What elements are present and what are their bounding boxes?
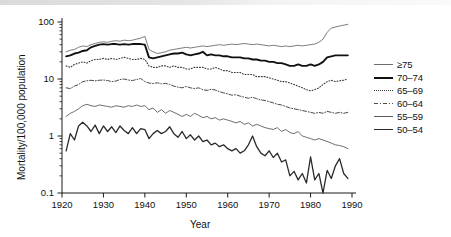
legend-label: 60–64 [397, 98, 423, 109]
legend-label: 55–59 [397, 111, 423, 122]
series-line-2 [66, 57, 348, 91]
legend-item-2: 65–69 [374, 84, 450, 97]
legend-line-swatch [374, 112, 393, 122]
legend-line-swatch [374, 73, 393, 83]
chart-legend: ≥7570–7465–6960–6455–5950–54 [374, 58, 450, 136]
y-tick-label: 1 [0, 130, 54, 141]
legend-line-swatch [374, 86, 393, 96]
legend-item-3: 60–64 [374, 97, 450, 110]
legend-line-swatch [374, 60, 393, 70]
legend-item-0: ≥75 [374, 58, 450, 71]
series-group [66, 24, 348, 193]
x-tick-label: 1990 [339, 199, 365, 210]
legend-line-swatch [374, 99, 393, 109]
x-tick-label: 1950 [173, 199, 199, 210]
legend-label: 50–54 [397, 124, 423, 135]
legend-line-swatch [374, 125, 393, 135]
x-tick-label: 1940 [132, 199, 158, 210]
legend-label: 65–69 [397, 85, 423, 96]
x-tick-label: 1920 [49, 199, 75, 210]
x-tick-label: 1960 [215, 199, 241, 210]
y-tick-label: 100 [0, 16, 54, 27]
legend-label: ≥75 [397, 59, 412, 70]
y-tick-label: 0.1 [0, 187, 54, 198]
chart-figure: Mortality/100,000 population Year 0.1110… [0, 0, 451, 237]
y-tick-label: 10 [0, 73, 54, 84]
x-tick-label: 1930 [90, 199, 116, 210]
series-line-3 [66, 79, 348, 114]
y-axis-ticks [58, 22, 63, 193]
x-tick-label: 1980 [298, 199, 324, 210]
series-line-0 [66, 24, 348, 53]
x-tick-label: 1970 [256, 199, 282, 210]
legend-item-4: 55–59 [374, 110, 450, 123]
series-line-5 [66, 122, 348, 193]
series-line-1 [66, 44, 348, 66]
x-axis-label: Year [190, 219, 210, 230]
legend-item-1: 70–74 [374, 71, 450, 84]
legend-item-5: 50–54 [374, 123, 450, 136]
legend-label: 70–74 [397, 72, 423, 83]
x-axis-ticks [62, 193, 352, 198]
